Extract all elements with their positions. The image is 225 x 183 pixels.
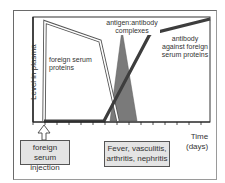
injection-box-line2: injection (21, 163, 69, 173)
complexes-label: antigen:antibody complexes (104, 19, 160, 35)
injection-box-line1: foreign serum (21, 143, 69, 163)
antibody-label-line1: antibody (160, 35, 210, 43)
foreign-serum-label-line1: foreign serum (49, 56, 92, 64)
complexes-label-line1: antigen:antibody (104, 19, 160, 27)
x-axis-label-line1: Time (186, 132, 208, 142)
x-axis-label-line2: (days) (186, 142, 208, 152)
y-axis-label: Level in plasma (29, 50, 39, 100)
symptoms-box-line1: Fever, vasculitis, (105, 144, 169, 154)
foreign-serum-label: foreign serum proteins (49, 56, 92, 72)
symptoms-box: Fever, vasculitis, arthritis, nephritis (104, 141, 170, 167)
foreign-serum-label-line2: proteins (49, 64, 92, 72)
antibody-label: antibody against foreign serum proteins (160, 35, 210, 59)
symptoms-box-line2: arthritis, nephritis (105, 154, 169, 164)
complexes-label-line2: complexes (104, 27, 160, 35)
injection-arrow-icon (38, 125, 50, 140)
x-axis-label: Time (days) (186, 132, 208, 152)
injection-box: foreign serum injection (20, 140, 70, 165)
antibody-label-line2: against foreign (160, 43, 210, 51)
antibody-label-line3: serum proteins (160, 51, 210, 59)
